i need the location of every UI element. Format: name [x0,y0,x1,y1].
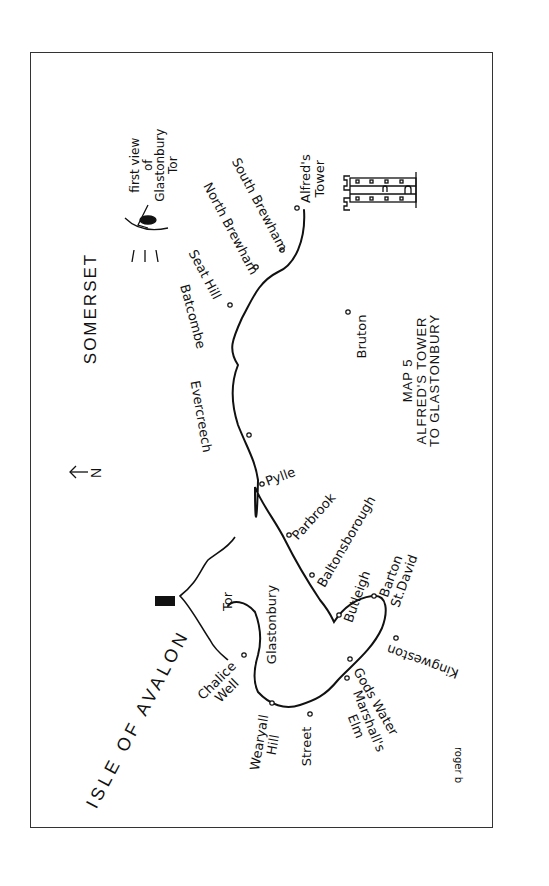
eye-icon [125,205,168,262]
viewpoint-label: first view of Glastonbury Tor [129,129,179,202]
county-label: SOMERSET [82,253,99,364]
place-glastonbury: Glastonbury [265,585,278,664]
alfreds-tower-label: Alfred's Tower [299,154,326,203]
st-michael-tower-icon [155,596,175,606]
artist-signature: roger b [453,747,463,783]
north-arrow-icon [70,466,88,478]
place-street: Street [300,727,313,767]
walking-route [228,210,386,707]
place-bruton: Bruton [355,315,368,359]
north-label: N [89,466,103,478]
place-tor: Tor [221,592,234,611]
map-title: MAP 5 ALFRED'S TOWER TO GLASTONBURY [401,314,442,447]
alfreds-tower-icon [344,172,416,210]
